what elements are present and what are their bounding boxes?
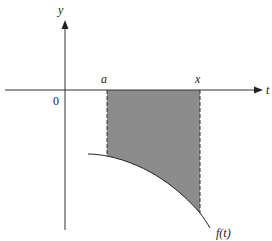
shaded-region: [107, 90, 200, 213]
upper-bound-label: x: [194, 72, 201, 86]
y-axis-label: y: [57, 3, 64, 17]
t-axis-arrow-icon: [254, 87, 263, 94]
area-under-curve-diagram: y t 0 a x f(t): [0, 0, 272, 241]
curve-label: f(t): [216, 226, 231, 240]
y-axis-arrow-icon: [62, 20, 69, 29]
t-axis-label: t: [266, 83, 270, 97]
origin-label: 0: [53, 94, 59, 108]
lower-bound-label: a: [101, 72, 107, 86]
